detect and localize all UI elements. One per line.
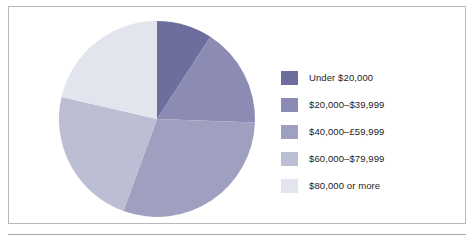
legend-swatch-icon bbox=[281, 125, 298, 139]
legend-item-under-20000[interactable]: Under $20,000 bbox=[281, 69, 451, 86]
legend-swatch-icon bbox=[281, 152, 298, 166]
legend-item-40000-59999[interactable]: $40,000–£59,999 bbox=[281, 123, 451, 140]
figure-root: Under $20,000 $20,000–$39,999 $40,000–£5… bbox=[0, 0, 476, 243]
chart-legend: Under $20,000 $20,000–$39,999 $40,000–£5… bbox=[281, 69, 451, 194]
legend-item-label: $40,000–£59,999 bbox=[309, 125, 384, 139]
legend-item-label: $60,000–$79,999 bbox=[309, 152, 384, 166]
legend-item-20000-39999[interactable]: $20,000–$39,999 bbox=[281, 96, 451, 113]
pie-slice-group bbox=[59, 21, 255, 217]
legend-swatch-icon bbox=[281, 98, 298, 112]
pie-chart-svg bbox=[57, 19, 257, 219]
legend-item-label: $20,000–$39,999 bbox=[309, 98, 384, 112]
chart-frame: Under $20,000 $20,000–$39,999 $40,000–£5… bbox=[8, 6, 466, 224]
legend-item-label: Under $20,000 bbox=[309, 71, 373, 85]
legend-swatch-icon bbox=[281, 71, 298, 85]
legend-item-60000-79999[interactable]: $60,000–$79,999 bbox=[281, 150, 451, 167]
footer-divider bbox=[8, 234, 466, 235]
legend-item-label: $80,000 or more bbox=[309, 179, 380, 193]
legend-item-80000-or-more[interactable]: $80,000 or more bbox=[281, 177, 451, 194]
pie-chart bbox=[57, 19, 257, 219]
legend-swatch-icon bbox=[281, 179, 298, 193]
